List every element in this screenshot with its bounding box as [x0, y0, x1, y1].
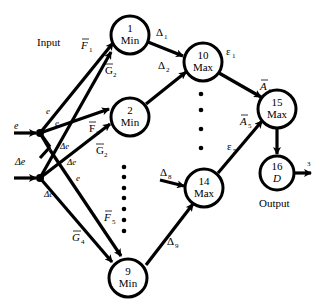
- label-G2a: G 2: [105, 64, 117, 79]
- svg-text:Δ: Δ: [167, 235, 174, 247]
- svg-text:9: 9: [125, 265, 131, 277]
- label-F1: F 1: [80, 39, 93, 54]
- label-e-to2: e: [55, 118, 59, 128]
- edge-10-to-15: [219, 73, 261, 97]
- svg-text:2: 2: [166, 66, 170, 74]
- svg-text:1: 1: [232, 52, 236, 60]
- svg-text:F: F: [103, 211, 111, 223]
- svg-text:ε: ε: [227, 140, 232, 152]
- label-e-to9: e: [76, 173, 80, 183]
- node-9-min: 9 Min: [109, 259, 147, 297]
- node-10-max: 10 Max: [184, 43, 222, 81]
- node-1-min: 1 Min: [111, 16, 149, 54]
- svg-text:1: 1: [127, 22, 133, 34]
- label-F5: F 5: [103, 211, 116, 226]
- label-eps5: ε 5: [227, 140, 237, 155]
- svg-text:2: 2: [127, 104, 133, 116]
- svg-text:5: 5: [112, 218, 116, 226]
- node-15-max: 15 Max: [258, 90, 296, 128]
- svg-text:4: 4: [81, 238, 85, 246]
- label-eps1: ε 1: [226, 45, 236, 60]
- svg-text:14: 14: [199, 175, 211, 187]
- label-e-to1: e: [46, 106, 50, 116]
- edge-2-to-10: [146, 72, 186, 104]
- svg-text:Δ: Δ: [160, 166, 167, 178]
- label-delta9: Δ 9: [167, 235, 179, 250]
- svg-text:Δ: Δ: [156, 26, 163, 38]
- svg-text:G: G: [105, 64, 113, 76]
- node-2-min: 2 Min: [111, 98, 149, 136]
- node-14-max: 14 Max: [185, 169, 223, 207]
- node-16-d: 16 D: [260, 156, 294, 190]
- ellipsis-dots-min: [122, 165, 127, 234]
- svg-text:2: 2: [96, 129, 100, 137]
- label-output-3: 3: [307, 160, 311, 168]
- ellipsis-dots-max: [199, 92, 204, 151]
- output-label: Output: [259, 197, 290, 209]
- edge-14-to-15: [218, 121, 262, 173]
- svg-text:15: 15: [272, 96, 284, 108]
- label-delta8: Δ 8: [160, 166, 172, 181]
- svg-text:Max: Max: [194, 187, 215, 199]
- svg-text:F: F: [80, 39, 88, 51]
- svg-text:5: 5: [233, 147, 237, 155]
- svg-text:10: 10: [198, 49, 210, 61]
- edge-1-to-10: [148, 42, 183, 56]
- label-G4: G 4: [72, 231, 85, 246]
- svg-text:ε: ε: [226, 45, 231, 57]
- fuzzy-inference-network-diagram: 1 Min 2 Min 9 Min 10 Max 14 Max 15 Max 1…: [0, 0, 321, 307]
- label-de-to9: Δe: [43, 189, 53, 199]
- svg-text:Max: Max: [193, 61, 214, 73]
- input-e-label: e: [14, 120, 19, 131]
- label-delta2: Δ 2: [158, 59, 170, 74]
- label-de-to2b: Δe: [66, 157, 76, 167]
- label-G2b: G 2: [96, 144, 108, 159]
- svg-text:Min: Min: [121, 34, 140, 46]
- edge-8-to-14: [160, 180, 184, 186]
- svg-text:G: G: [72, 231, 80, 243]
- svg-text:Min: Min: [121, 116, 140, 128]
- svg-text:8: 8: [168, 173, 172, 181]
- label-delta1: Δ 1: [156, 26, 168, 41]
- input-de-label: Δe: [14, 156, 26, 167]
- svg-text:D: D: [272, 172, 281, 184]
- svg-text:2: 2: [113, 71, 117, 79]
- svg-text:1: 1: [89, 46, 93, 54]
- svg-text:Min: Min: [119, 277, 138, 289]
- label-de-to2: Δe: [59, 141, 69, 151]
- svg-text:Max: Max: [267, 108, 288, 120]
- svg-text:A: A: [239, 115, 247, 127]
- svg-text:1: 1: [268, 87, 272, 95]
- svg-text:Δ: Δ: [158, 59, 165, 71]
- svg-text:16: 16: [272, 160, 284, 172]
- svg-text:G: G: [96, 144, 104, 156]
- svg-text:5: 5: [248, 122, 252, 130]
- label-A5: A 5: [239, 115, 252, 130]
- input-label: Input: [37, 36, 60, 48]
- svg-text:F: F: [89, 122, 95, 134]
- svg-text:9: 9: [175, 242, 179, 250]
- svg-text:1: 1: [164, 33, 168, 41]
- svg-text:2: 2: [104, 151, 108, 159]
- svg-text:A: A: [259, 80, 267, 92]
